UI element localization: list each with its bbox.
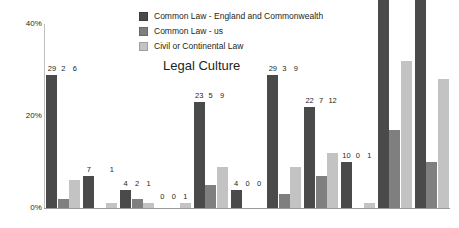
bar (304, 107, 315, 208)
bar (106, 203, 117, 208)
bar (267, 75, 278, 208)
bar-group: 2359 (194, 24, 228, 208)
bar-group: 22712 (304, 24, 338, 208)
bar-value-label: 9 (290, 65, 301, 73)
bar-value-labels: 71 (83, 166, 117, 174)
bar-group: 421 (120, 24, 154, 208)
bar-value-label: 9 (217, 92, 228, 100)
bar-value-label: 1 (364, 152, 375, 160)
bar-value-labels: 421 (120, 180, 154, 188)
bar-value-labels: 2359 (194, 92, 228, 100)
bar (341, 162, 352, 208)
bar-value-label: 0 (157, 193, 168, 201)
bar-value-label: 4 (231, 180, 242, 188)
bar-value-label: 3 (279, 65, 290, 73)
bar-group-bars (304, 24, 338, 208)
legend-item-common-law-england: Common Law - England and Commonwealth (139, 10, 323, 23)
y-tick-20: 20% (2, 112, 42, 120)
bar-group: 001 (157, 24, 191, 208)
bar-value-labels: 22712 (304, 97, 338, 105)
bar-group-bars (194, 24, 228, 208)
bar-group: 711028 (415, 24, 449, 208)
bar-value-labels: 001 (157, 193, 191, 201)
bar (415, 0, 426, 208)
bar-value-label: 2 (58, 65, 69, 73)
bar (58, 199, 69, 208)
bar (46, 75, 57, 208)
bar (316, 176, 327, 208)
bar-group: 2939 (267, 24, 301, 208)
bar-group-bars (83, 24, 117, 208)
bar-value-labels: 400 (231, 180, 265, 188)
bar (364, 203, 375, 208)
bar-value-label: 1 (180, 193, 191, 201)
bar (132, 199, 143, 208)
bar-group: 1001 (341, 24, 375, 208)
bar-group-bars (378, 24, 412, 208)
bar-value-label: 0 (242, 180, 253, 188)
bar-group: 400 (231, 24, 265, 208)
bar-value-label: 23 (194, 92, 205, 100)
bar-group-bars (267, 24, 301, 208)
legend-label: Common Law - England and Commonwealth (154, 12, 323, 21)
plot-area: 2926714210012359400293922712100190173271… (45, 24, 450, 208)
bar (69, 180, 80, 208)
bar-value-label: 5 (205, 92, 216, 100)
bar-value-labels: 2939 (267, 65, 301, 73)
bar (290, 167, 301, 208)
bar (194, 102, 205, 208)
y-tick-0: 0% (2, 204, 42, 212)
bar (378, 0, 389, 208)
bar-value-label: 7 (83, 166, 94, 174)
x-axis-line (44, 208, 450, 209)
bar-value-label: 0 (168, 193, 179, 201)
bar-group: 71 (83, 24, 117, 208)
bar-value-label: 1 (106, 166, 117, 174)
bar-value-label: 29 (267, 65, 278, 73)
bar-value-label: 0 (254, 180, 265, 188)
bar-value-label: 12 (327, 97, 338, 105)
bar-group-bars (46, 24, 80, 208)
bar-group: 2926 (46, 24, 80, 208)
bar-value-label: 1 (143, 180, 154, 188)
bar-group: 901732 (378, 24, 412, 208)
bar (143, 203, 154, 208)
bar-group-bars (157, 24, 191, 208)
bar-group-bars (341, 24, 375, 208)
bar (83, 176, 94, 208)
bar (279, 194, 290, 208)
bar-value-label: 29 (46, 65, 57, 73)
bar (327, 153, 338, 208)
bar (217, 167, 228, 208)
bar-value-label: 10 (341, 152, 352, 160)
bar-value-label: 2 (132, 180, 143, 188)
bar (389, 130, 400, 208)
y-tick-40: 40% (2, 20, 42, 28)
bar (231, 190, 242, 208)
bar-value-label: 4 (120, 180, 131, 188)
bar-group-bars (415, 24, 449, 208)
bar (438, 79, 449, 208)
bar (401, 61, 412, 208)
bar (426, 162, 437, 208)
bar-value-labels: 2926 (46, 65, 80, 73)
bar-value-label: 22 (304, 97, 315, 105)
bar-value-label: 6 (69, 65, 80, 73)
bar-value-labels: 1001 (341, 152, 375, 160)
bar-chart: 40% 20% 0% Common Law - England and Comm… (0, 0, 459, 228)
bar (205, 185, 216, 208)
bar (120, 190, 131, 208)
bar-value-label: 7 (316, 97, 327, 105)
bar-value-label: 0 (352, 152, 363, 160)
legend-swatch-icon (139, 12, 148, 21)
bar (180, 203, 191, 208)
